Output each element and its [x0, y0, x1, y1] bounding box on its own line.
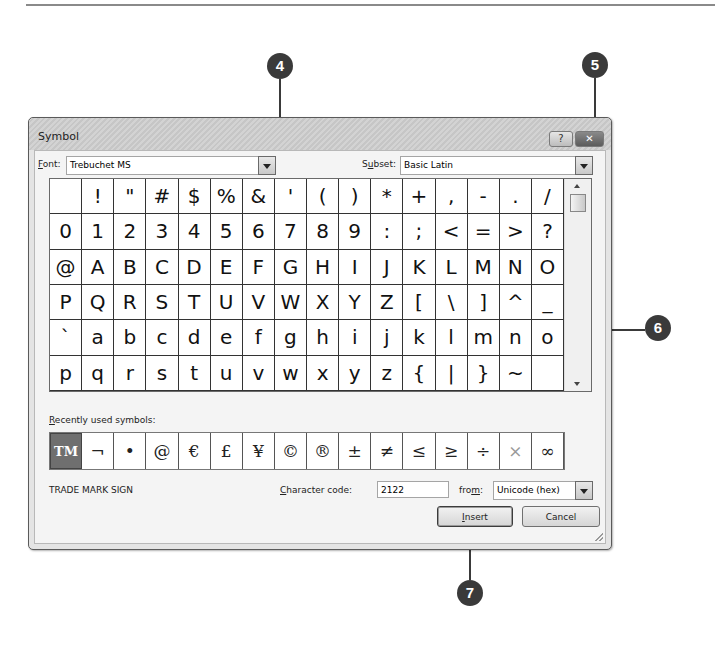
symbol-cell[interactable]: 4 [179, 214, 211, 249]
symbol-cell[interactable]: a [82, 320, 114, 355]
symbol-cell[interactable]: : [371, 214, 403, 249]
symbol-cell[interactable]: u [211, 356, 243, 391]
help-button[interactable]: ? [549, 131, 573, 147]
symbol-cell[interactable]: 8 [307, 214, 339, 249]
chevron-down-icon[interactable] [575, 481, 593, 500]
symbol-cell[interactable]: = [468, 214, 500, 249]
recent-symbol[interactable]: ∞ [532, 433, 564, 469]
recent-symbol[interactable]: ≠ [371, 433, 403, 469]
symbol-cell[interactable]: > [500, 214, 532, 249]
symbol-cell[interactable]: G [275, 250, 307, 285]
recent-symbol[interactable]: ¥ [243, 433, 275, 469]
symbol-cell[interactable]: g [275, 320, 307, 355]
symbol-cell[interactable]: t [179, 356, 211, 391]
chevron-down-icon[interactable] [575, 156, 593, 175]
symbol-cell[interactable]: z [371, 356, 403, 391]
symbol-cell[interactable]: _ [532, 285, 564, 320]
symbol-cell[interactable]: { [403, 356, 435, 391]
symbol-cell[interactable]: [ [403, 285, 435, 320]
recent-symbol[interactable]: ® [307, 433, 339, 469]
symbol-cell[interactable]: 0 [50, 214, 82, 249]
symbol-cell[interactable]: c [146, 320, 178, 355]
recent-symbol-selected[interactable]: TM [50, 433, 82, 469]
symbol-cell[interactable] [532, 356, 564, 391]
symbol-cell[interactable]: 6 [243, 214, 275, 249]
symbol-cell[interactable]: | [436, 356, 468, 391]
symbol-cell[interactable]: J [371, 250, 403, 285]
subset-dropdown[interactable]: Basic Latin [400, 156, 593, 175]
symbol-cell[interactable]: A [82, 250, 114, 285]
close-button[interactable]: ✕ [575, 131, 604, 147]
symbol-cell[interactable]: 2 [114, 214, 146, 249]
symbol-cell[interactable]: * [371, 179, 403, 214]
cancel-button[interactable]: Cancel [522, 506, 600, 527]
symbol-cell[interactable]: l [436, 320, 468, 355]
symbol-cell[interactable]: # [146, 179, 178, 214]
recent-symbol[interactable]: £ [211, 433, 243, 469]
symbol-cell[interactable]: N [500, 250, 532, 285]
resize-grip-icon[interactable] [595, 533, 603, 541]
symbol-cell[interactable]: v [243, 356, 275, 391]
symbol-cell[interactable]: n [500, 320, 532, 355]
symbol-cell[interactable]: C [146, 250, 178, 285]
symbol-cell[interactable]: ! [82, 179, 114, 214]
symbol-cell[interactable]: / [532, 179, 564, 214]
symbol-cell[interactable]: . [500, 179, 532, 214]
symbol-cell[interactable]: Q [82, 285, 114, 320]
symbol-cell[interactable]: i [339, 320, 371, 355]
symbol-cell[interactable]: h [307, 320, 339, 355]
symbol-cell[interactable]: 9 [339, 214, 371, 249]
symbol-cell[interactable]: p [50, 356, 82, 391]
recent-symbol[interactable]: ± [339, 433, 371, 469]
symbol-cell[interactable]: j [371, 320, 403, 355]
symbol-cell[interactable]: < [436, 214, 468, 249]
recent-symbol[interactable]: ≤ [403, 433, 435, 469]
symbol-cell[interactable]: x [307, 356, 339, 391]
symbol-cell[interactable]: K [403, 250, 435, 285]
scroll-down-icon[interactable] [574, 382, 580, 386]
symbol-cell[interactable]: d [179, 320, 211, 355]
symbol-cell[interactable]: ` [50, 320, 82, 355]
symbol-cell[interactable]: R [114, 285, 146, 320]
recent-symbol[interactable]: • [114, 433, 146, 469]
symbol-cell[interactable]: ] [468, 285, 500, 320]
insert-button[interactable]: Insert [437, 506, 513, 527]
symbol-cell[interactable]: m [468, 320, 500, 355]
recent-symbol[interactable]: @ [146, 433, 178, 469]
symbol-cell[interactable]: B [114, 250, 146, 285]
title-bar[interactable]: Symbol ? ✕ [29, 118, 611, 150]
symbol-cell[interactable]: & [243, 179, 275, 214]
symbol-cell[interactable]: y [339, 356, 371, 391]
symbol-grid-scrollbar[interactable] [564, 179, 591, 391]
symbol-cell[interactable]: X [307, 285, 339, 320]
symbol-cell[interactable]: w [275, 356, 307, 391]
symbol-cell[interactable]: ) [339, 179, 371, 214]
symbol-cell[interactable]: E [211, 250, 243, 285]
symbol-cell[interactable]: ' [275, 179, 307, 214]
recent-symbol[interactable]: × [500, 433, 532, 469]
symbol-cell[interactable]: " [114, 179, 146, 214]
symbol-cell[interactable]: T [179, 285, 211, 320]
symbol-cell[interactable]: Y [339, 285, 371, 320]
symbol-cell[interactable]: ? [532, 214, 564, 249]
symbol-cell[interactable]: , [436, 179, 468, 214]
symbol-cell[interactable]: \ [436, 285, 468, 320]
symbol-cell[interactable]: V [243, 285, 275, 320]
recent-symbol[interactable]: © [275, 433, 307, 469]
symbol-cell[interactable]: % [211, 179, 243, 214]
symbol-cell[interactable]: e [211, 320, 243, 355]
character-code-input[interactable]: 2122 [377, 481, 449, 498]
chevron-down-icon[interactable] [258, 156, 276, 175]
symbol-cell[interactable]: $ [179, 179, 211, 214]
symbol-cell[interactable]: ( [307, 179, 339, 214]
scroll-thumb[interactable] [570, 194, 586, 212]
recent-symbol[interactable]: ¬ [82, 433, 114, 469]
symbol-cell[interactable]: } [468, 356, 500, 391]
symbol-cell[interactable]: Z [371, 285, 403, 320]
symbol-cell[interactable]: F [243, 250, 275, 285]
symbol-cell[interactable] [50, 179, 82, 214]
symbol-cell[interactable]: o [532, 320, 564, 355]
symbol-cell[interactable]: s [146, 356, 178, 391]
symbol-cell[interactable]: f [243, 320, 275, 355]
symbol-cell[interactable]: I [339, 250, 371, 285]
